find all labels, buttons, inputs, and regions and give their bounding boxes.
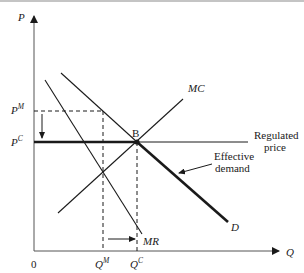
regulated-price-text-line2: price bbox=[264, 141, 286, 153]
effective-demand-pointer-icon bbox=[179, 164, 212, 173]
effective-demand-text-line2: demand bbox=[215, 162, 250, 174]
pc-label: PC bbox=[10, 134, 24, 148]
effective-demand-text-line1: Effective bbox=[214, 150, 254, 162]
price-axis-label: P bbox=[17, 11, 25, 23]
pm-label: PM bbox=[10, 102, 25, 116]
origin-label: 0 bbox=[31, 258, 37, 270]
demand-curve-upper bbox=[61, 73, 137, 142]
quantity-axis-label: Q bbox=[286, 246, 294, 258]
mc-label: MC bbox=[187, 82, 205, 94]
regulation-diagram: P Q 0 PM PC QM QC MC MR D B Regulated pr… bbox=[0, 0, 304, 273]
demand-label: D bbox=[230, 221, 239, 233]
qc-label: QC bbox=[130, 256, 144, 270]
regulated-price-text-line1: Regulated bbox=[254, 129, 299, 141]
point-b-marker bbox=[134, 139, 139, 144]
mr-label: MR bbox=[142, 235, 159, 247]
qm-label: QM bbox=[95, 256, 110, 270]
point-b-label: B bbox=[132, 127, 139, 139]
mc-curve bbox=[58, 99, 183, 213]
